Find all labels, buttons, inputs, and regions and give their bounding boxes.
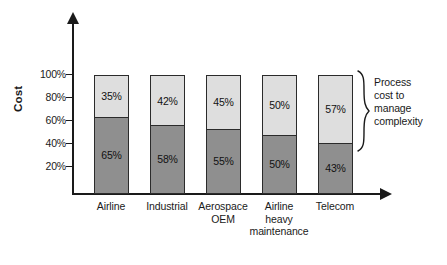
x-category-label-telecom: Telecom — [289, 200, 381, 213]
bar-segment-base-cost[interactable]: 65% — [94, 117, 129, 194]
bar-segment-label: 43% — [325, 162, 345, 174]
y-tick-label-20: 20% — [18, 161, 66, 171]
annotation-line-3: manage — [374, 102, 446, 115]
annotation-line-2: cost to — [374, 89, 446, 102]
annotation-line-4: complexity — [374, 115, 446, 128]
bar-telecom[interactable]: 57% 43% — [318, 75, 353, 194]
y-axis-line — [72, 22, 74, 194]
bar-segment-base-cost[interactable]: 43% — [318, 143, 353, 194]
y-tick-label-60: 60% — [18, 115, 66, 125]
y-tick-20 — [66, 166, 73, 167]
y-axis-arrowhead-icon — [67, 12, 79, 24]
bar-segment-label: 50% — [269, 99, 289, 111]
y-tick-40 — [66, 143, 73, 144]
bar-segment-label: 42% — [157, 95, 177, 107]
bar-airline[interactable]: 35% 65% — [94, 75, 129, 194]
bar-segment-process-cost[interactable]: 35% — [94, 75, 129, 117]
annotation-process-cost: Process cost to manage complexity — [374, 76, 446, 128]
bar-segment-base-cost[interactable]: 50% — [262, 135, 297, 195]
stacked-bar-chart: Cost 100% 80% 60% 40% 20% 35% 65% 42% 58… — [0, 0, 447, 265]
y-tick-100 — [66, 74, 73, 75]
bar-segment-label: 55% — [213, 155, 233, 167]
bar-segment-label: 35% — [101, 90, 121, 102]
curly-brace-icon — [356, 70, 370, 152]
bar-segment-process-cost[interactable]: 50% — [262, 75, 297, 135]
x-category-label-line: heavy — [233, 213, 325, 226]
x-category-label-line: maintenance — [233, 225, 325, 238]
bar-aerospace-oem[interactable]: 45% 55% — [206, 75, 241, 194]
y-tick-label-80: 80% — [18, 92, 66, 102]
annotation-line-1: Process — [374, 76, 446, 89]
bar-segment-base-cost[interactable]: 58% — [150, 125, 185, 194]
y-tick-label-100: 100% — [18, 69, 66, 79]
bar-segment-process-cost[interactable]: 45% — [206, 75, 241, 129]
bar-segment-label: 58% — [157, 153, 177, 165]
y-tick-80 — [66, 97, 73, 98]
bar-segment-label: 65% — [101, 149, 121, 161]
bar-segment-base-cost[interactable]: 55% — [206, 129, 241, 194]
x-axis-arrowhead-icon — [380, 188, 392, 200]
bar-segment-process-cost[interactable]: 57% — [318, 75, 353, 143]
y-tick-60 — [66, 120, 73, 121]
bar-segment-label: 57% — [325, 103, 345, 115]
bar-industrial[interactable]: 42% 58% — [150, 75, 185, 194]
x-category-label-line: Telecom — [289, 200, 381, 213]
bar-segment-label: 50% — [269, 158, 289, 170]
y-tick-label-40: 40% — [18, 138, 66, 148]
bar-airline-heavy-maintenance[interactable]: 50% 50% — [262, 75, 297, 194]
bar-segment-label: 45% — [213, 96, 233, 108]
bar-segment-process-cost[interactable]: 42% — [150, 75, 185, 125]
